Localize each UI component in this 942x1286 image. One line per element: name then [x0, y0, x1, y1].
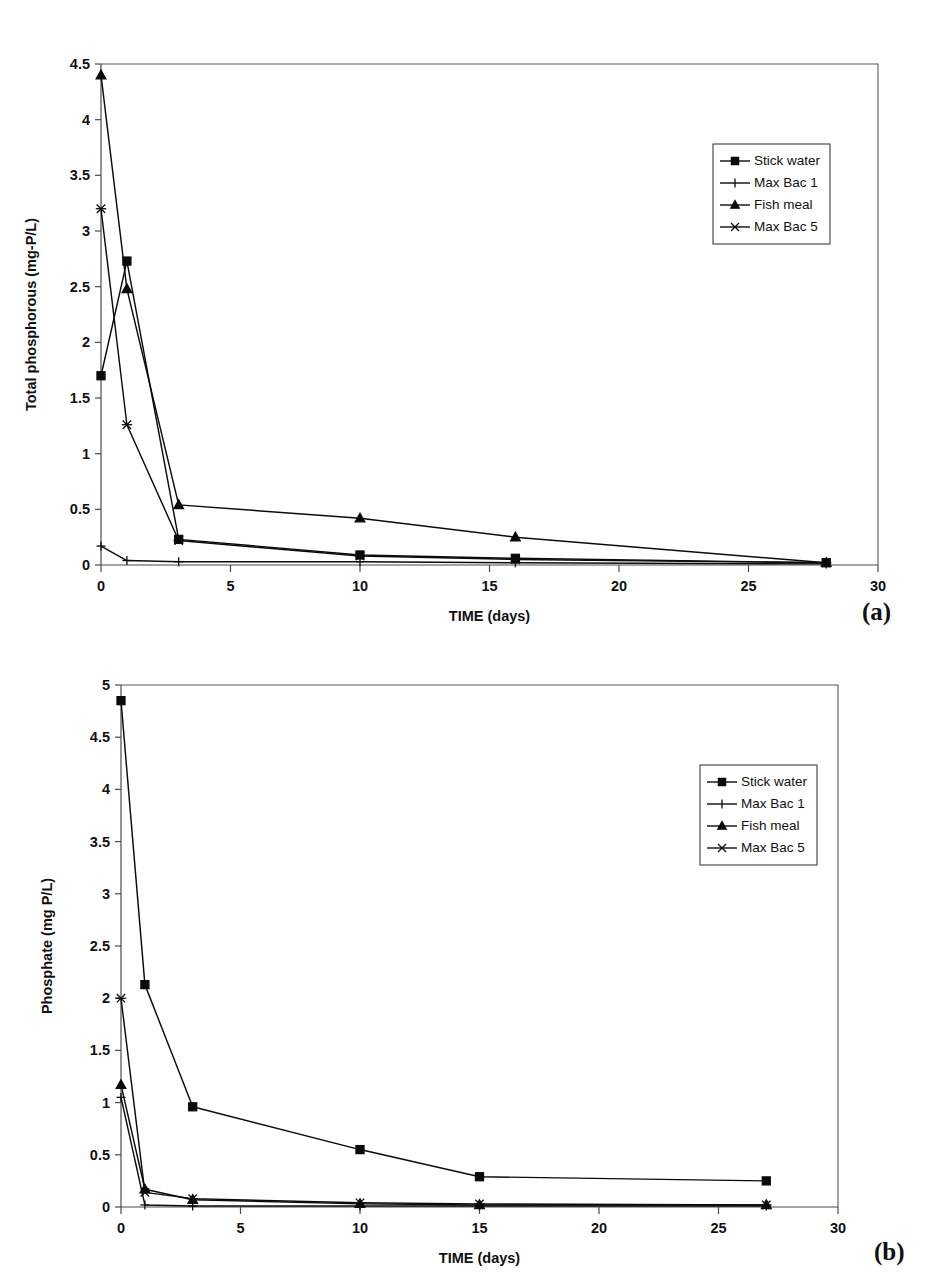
square-glyph [97, 372, 105, 380]
series-max-bac-1 [117, 1093, 771, 1211]
plot-frame [121, 685, 838, 1207]
y-tick-label: 0.5 [70, 501, 90, 517]
series-polyline [121, 701, 766, 1181]
y-tick-label: 2 [102, 990, 110, 1006]
y-tick-label: 0.5 [90, 1147, 110, 1163]
series-stick-water [117, 697, 770, 1185]
y-tick-label: 3.5 [90, 834, 110, 850]
series-max-bac-1 [97, 542, 831, 569]
x-tick-label: 0 [97, 578, 105, 594]
x-tick-label: 25 [740, 578, 756, 594]
plot-frame [101, 64, 878, 565]
y-tick-label: 0 [82, 557, 90, 573]
x-tick-label: 30 [870, 578, 886, 594]
legend-item-label: Fish meal [754, 197, 813, 212]
legend: Stick waterMax Bac 1Fish mealMax Bac 5 [713, 144, 830, 244]
series-polyline [101, 209, 826, 563]
legend-item-label: Max Bac 1 [741, 796, 805, 811]
total-phosphorous-chart: 00.511.522.533.544.5051015202530TIME (da… [0, 0, 942, 650]
chart-panel-b: 00.511.522.533.544.55051015202530TIME (d… [0, 650, 942, 1286]
x-tick-label: 15 [471, 1220, 487, 1236]
x-tick-label: 25 [710, 1220, 726, 1236]
y-tick-label: 1.5 [70, 390, 90, 406]
square-glyph [762, 1177, 770, 1185]
square-glyph [189, 1103, 197, 1111]
y-tick-label: 2 [82, 334, 90, 350]
legend-item-label: Max Bac 5 [741, 840, 805, 855]
y-tick-label: 4 [82, 112, 90, 128]
series-stick-water [97, 257, 830, 567]
x-tick-label: 0 [117, 1220, 125, 1236]
y-tick-label: 3.5 [70, 167, 90, 183]
marker-square [97, 372, 105, 380]
triangle-glyph [122, 284, 132, 293]
triangle-glyph [116, 1080, 126, 1089]
square-glyph [731, 157, 738, 164]
x-axis-title: TIME (days) [449, 608, 531, 624]
series-polyline [121, 998, 766, 1205]
marker-plus [97, 542, 106, 551]
y-tick-label: 2.5 [70, 279, 90, 295]
marker-triangle [174, 500, 184, 509]
x-tick-label: 15 [481, 578, 497, 594]
panel-b-label: (b) [874, 1238, 905, 1266]
x-tick-label: 5 [236, 1220, 244, 1236]
x-axis-title: TIME (days) [439, 1250, 521, 1266]
legend-item-label: Stick water [754, 153, 821, 168]
series-polyline [121, 1085, 766, 1205]
y-tick-label: 1 [82, 446, 90, 462]
legend-item-label: Fish meal [741, 818, 800, 833]
y-tick-label: 3 [102, 886, 110, 902]
y-tick-label: 4 [102, 781, 110, 797]
marker-triangle [116, 1080, 126, 1089]
marker-square [476, 1173, 484, 1181]
marker-triangle [122, 284, 132, 293]
marker-square [762, 1177, 770, 1185]
marker-square [189, 1103, 197, 1111]
triangle-glyph [174, 500, 184, 509]
y-tick-label: 3 [82, 223, 90, 239]
square-glyph [718, 778, 725, 785]
x-tick-label: 10 [352, 578, 368, 594]
square-glyph [356, 1146, 364, 1154]
series-max-bac-5 [116, 994, 772, 1209]
legend-item-label: Stick water [741, 774, 808, 789]
marker-square [356, 1146, 364, 1154]
square-glyph [117, 697, 125, 705]
series-fish-meal [116, 1080, 771, 1209]
legend-item-label: Max Bac 1 [754, 175, 818, 190]
chart-panel-a: 00.511.522.533.544.5051015202530TIME (da… [0, 0, 942, 650]
x-tick-label: 20 [611, 578, 627, 594]
x-tick-label: 5 [226, 578, 234, 594]
legend-item-label: Max Bac 5 [754, 219, 818, 234]
x-tick-label: 10 [352, 1220, 368, 1236]
marker-plus [122, 556, 131, 565]
y-tick-label: 4.5 [90, 729, 110, 745]
panel-a-label: (a) [862, 598, 891, 626]
y-tick-label: 1 [102, 1095, 110, 1111]
series-polyline [101, 261, 826, 563]
y-axis-title: Total phosphorous (mg-P/L) [23, 218, 39, 411]
y-tick-label: 5 [102, 677, 110, 693]
y-tick-label: 1.5 [90, 1042, 110, 1058]
square-glyph [141, 981, 149, 989]
y-tick-label: 0 [102, 1199, 110, 1215]
square-glyph [476, 1173, 484, 1181]
triangle-glyph [96, 70, 106, 79]
marker-square [141, 981, 149, 989]
y-axis-title: Phosphate (mg P/L) [39, 878, 55, 1014]
y-tick-label: 2.5 [90, 938, 110, 954]
x-tick-label: 30 [830, 1220, 846, 1236]
x-tick-label: 20 [591, 1220, 607, 1236]
phosphate-chart: 00.511.522.533.544.55051015202530TIME (d… [0, 650, 942, 1286]
marker-triangle [96, 70, 106, 79]
marker-square [117, 697, 125, 705]
series-max-bac-5 [96, 205, 832, 567]
y-tick-label: 4.5 [70, 56, 90, 72]
legend: Stick waterMax Bac 1Fish mealMax Bac 5 [700, 765, 817, 865]
marker-plus [140, 1200, 149, 1209]
